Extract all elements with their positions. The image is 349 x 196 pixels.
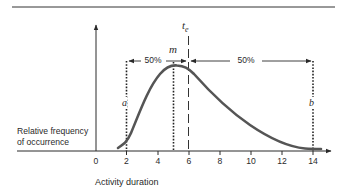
x-tick-label-0: 0 [94, 156, 99, 166]
beta-distribution-diagram [0, 0, 349, 196]
a-label: a [122, 97, 127, 108]
x-tick-label-8: 8 [218, 156, 223, 166]
x-tick-label-14: 14 [308, 156, 318, 166]
x-tick-label-10: 10 [246, 156, 256, 166]
left-span-label: 50% [143, 55, 162, 65]
m-label: m [169, 43, 177, 55]
x-tick-label-2: 2 [124, 156, 129, 166]
x-axis-label: Activity duration [95, 177, 159, 187]
x-ticks [127, 151, 314, 155]
y-axis-label-line2: of occurrence [17, 137, 88, 148]
te-label-sub: e [185, 25, 189, 34]
te-label: te [182, 19, 189, 34]
right-span-label: 50% [236, 55, 255, 65]
distribution-curve [118, 65, 321, 149]
b-label: b [309, 97, 314, 108]
y-axis-label-line1: Relative frequency [17, 126, 88, 137]
x-tick-label-4: 4 [156, 156, 161, 166]
x-tick-label-6: 6 [187, 156, 192, 166]
x-tick-label-12: 12 [277, 156, 287, 166]
y-axis-label: Relative frequency of occurrence [17, 126, 88, 147]
